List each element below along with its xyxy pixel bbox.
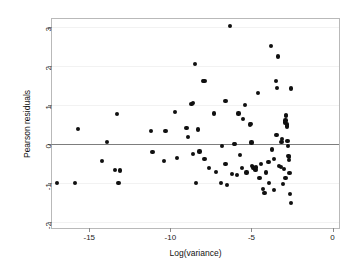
data-point	[193, 62, 197, 66]
data-point	[287, 171, 291, 175]
data-point	[173, 110, 177, 114]
data-point	[175, 156, 179, 160]
data-point	[282, 167, 286, 171]
data-point	[289, 201, 293, 205]
plot-frame: -2-10123-15-10-50	[51, 18, 340, 229]
data-point	[233, 142, 237, 146]
data-point	[285, 139, 289, 143]
data-point	[243, 103, 247, 107]
data-point	[249, 122, 253, 126]
x-axis-tick	[170, 228, 171, 232]
data-point	[254, 165, 258, 169]
data-point	[212, 111, 216, 115]
data-point	[223, 162, 227, 166]
data-point	[240, 166, 244, 170]
data-point	[257, 176, 261, 180]
zero-reference-line	[52, 144, 339, 145]
data-point	[113, 168, 117, 172]
x-axis-tick-label: -10	[165, 233, 177, 242]
y-axis-tick-label: 2	[45, 66, 53, 70]
y-axis-label: Pearson residuals	[21, 18, 33, 229]
data-point	[150, 150, 154, 154]
data-point	[236, 111, 240, 115]
data-point	[186, 135, 190, 139]
data-point	[202, 157, 206, 161]
data-point	[274, 79, 278, 83]
data-point	[276, 54, 280, 58]
data-point	[73, 181, 77, 185]
data-point	[223, 99, 227, 103]
data-point	[244, 170, 248, 174]
x-axis-tick-label: -5	[248, 233, 255, 242]
plot-canvas	[52, 19, 339, 228]
data-point	[202, 79, 206, 83]
data-point	[287, 158, 291, 162]
data-point	[162, 159, 166, 163]
data-point	[267, 181, 271, 185]
data-point	[191, 152, 195, 156]
data-point	[100, 159, 104, 163]
data-point	[196, 127, 200, 131]
data-point	[241, 117, 245, 121]
gridline-y	[52, 222, 339, 223]
data-point	[288, 192, 292, 196]
data-point	[266, 160, 270, 164]
data-point	[256, 91, 260, 95]
data-point	[197, 149, 201, 153]
x-axis-tick-label: 0	[330, 233, 334, 242]
data-point	[55, 181, 59, 185]
x-axis-tick	[251, 228, 252, 232]
y-axis-tick-label: 3	[45, 27, 53, 31]
y-axis-label-text: Pearson residuals	[22, 89, 32, 157]
data-point	[207, 166, 211, 170]
data-point	[275, 86, 279, 90]
data-point	[289, 86, 293, 90]
y-axis-tick-label: -1	[45, 183, 53, 190]
data-point	[270, 147, 274, 151]
data-point	[163, 129, 167, 133]
data-point	[286, 144, 290, 148]
data-point	[214, 170, 218, 174]
data-point	[285, 122, 289, 126]
data-point	[272, 188, 276, 192]
data-point	[281, 182, 285, 186]
data-point	[249, 140, 253, 144]
data-point	[283, 176, 287, 180]
data-point	[105, 140, 109, 144]
data-point	[118, 168, 122, 172]
data-point	[238, 153, 242, 157]
x-axis-label-text: Log(variance)	[170, 248, 222, 258]
x-axis-tick	[89, 228, 90, 232]
data-point	[194, 181, 198, 185]
data-point	[280, 137, 284, 141]
data-point	[264, 170, 268, 174]
data-point	[115, 112, 119, 116]
data-point	[149, 129, 153, 133]
gridline-y	[52, 27, 339, 28]
x-axis-tick-label: -15	[84, 233, 96, 242]
data-point	[225, 183, 229, 187]
x-axis-tick	[333, 228, 334, 232]
data-point	[230, 172, 234, 176]
data-point	[184, 126, 188, 130]
gridline-y	[52, 66, 339, 67]
x-axis-label: Log(variance)	[51, 248, 340, 258]
data-point	[235, 173, 239, 177]
data-point	[269, 44, 273, 48]
y-axis-tick-label: 1	[45, 105, 53, 109]
y-axis-tick-label: -2	[45, 222, 53, 229]
gridline-y	[52, 105, 339, 106]
data-point	[76, 127, 80, 131]
data-point	[219, 181, 223, 185]
data-point	[274, 133, 278, 137]
scatter-plot-figure: -2-10123-15-10-50 Pearson residuals Log(…	[0, 0, 363, 274]
data-point	[220, 144, 224, 148]
data-point	[262, 191, 266, 195]
y-axis-tick-label: 0	[45, 144, 53, 148]
data-point	[116, 181, 120, 185]
data-point	[272, 157, 276, 161]
data-point	[259, 162, 263, 166]
